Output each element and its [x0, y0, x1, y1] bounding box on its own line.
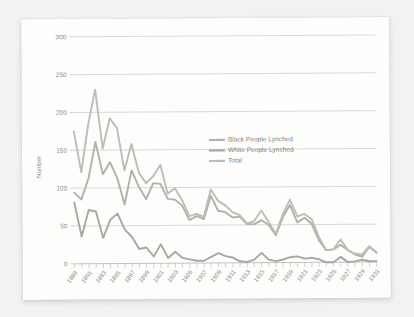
x-axis-tick-label: 1925	[324, 267, 338, 282]
x-axis-tick-label: 1923	[309, 267, 323, 282]
y-axis-tick-label: 100	[56, 184, 67, 191]
legend-label[interactable]: White People Lynched	[228, 146, 294, 154]
y-axis-tick-label: 300	[56, 33, 67, 40]
y-axis-title: Number	[35, 156, 42, 178]
y-axis-tick-label: 50	[60, 222, 68, 229]
x-axis-tick-label: 1907	[194, 268, 208, 283]
x-axis-tick-label: 1917	[266, 267, 280, 282]
x-axis-tick-labels: 1889189118931895189718991901190319051907…	[65, 267, 381, 284]
x-axis-tick-label: 1911	[223, 268, 237, 283]
x-axis-tick-label: 1929	[352, 267, 366, 282]
x-axis-tick-label: 1893	[94, 268, 108, 283]
y-axis-tick-label: 150	[56, 147, 67, 154]
series-line-total	[74, 88, 377, 256]
x-axis-tick-label: 1895	[108, 268, 122, 283]
y-axis-tick-label: 0	[64, 260, 68, 267]
legend-label[interactable]: Total	[228, 157, 243, 164]
gridline	[74, 111, 376, 113]
page-root: 050100150200250300 Number 18891891189318…	[0, 0, 414, 317]
x-axis-tick-label: 1927	[338, 267, 352, 282]
chart-card: 050100150200250300 Number 18891891189318…	[21, 17, 391, 300]
x-axis-tick-label: 1913	[237, 268, 251, 283]
x-axis-tick-label: 1889	[65, 269, 79, 284]
data-series-group	[74, 88, 377, 264]
x-axis-tick-label: 1901	[151, 268, 165, 283]
gridline	[73, 73, 375, 75]
chart-legend[interactable]: Black People LynchedWhite People Lynched…	[209, 135, 294, 164]
series-line-white-people-lynched	[74, 201, 376, 264]
x-axis-tick-label: 1891	[79, 269, 93, 284]
gridline	[74, 224, 376, 226]
series-line-black-people-lynched	[74, 140, 377, 258]
y-axis-tick-labels: 050100150200250300	[56, 33, 69, 267]
x-axis-tick-label: 1909	[209, 268, 223, 283]
gridline	[73, 35, 375, 37]
line-chart[interactable]: 050100150200250300 Number 18891891189318…	[21, 17, 391, 300]
x-axis-tick-label: 1905	[180, 268, 194, 283]
y-axis-tick-label: 250	[56, 71, 67, 78]
x-axis-tick-label: 1903	[166, 268, 180, 283]
x-axis-tick-label: 1897	[122, 268, 136, 283]
chart-plot-area: 050100150200250300 Number 18891891189318…	[21, 17, 391, 300]
x-axis-tick-label: 1915	[252, 267, 266, 282]
y-axis-tick-label: 200	[56, 109, 67, 116]
x-axis-tick-label: 1899	[137, 268, 151, 283]
x-axis-tick-label: 1919	[281, 267, 295, 282]
x-axis-tick-label: 1921	[295, 267, 309, 282]
legend-label[interactable]: Black People Lynched	[228, 135, 293, 143]
x-axis-tick-label: 1931	[367, 267, 381, 282]
